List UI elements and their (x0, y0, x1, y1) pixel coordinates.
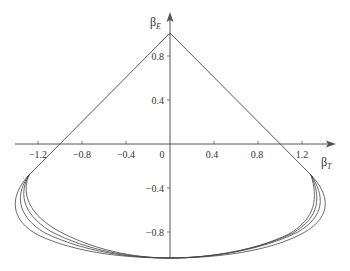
x-axis-label: βT (321, 155, 332, 171)
x-tick-label: 0 (160, 149, 165, 160)
y-tick-label: −0.8 (146, 227, 164, 238)
x-tick-label: −0.8 (73, 149, 91, 160)
y-axis-label: βE (150, 15, 161, 31)
y-tick-label: 0.8 (152, 51, 165, 62)
x-tick-label: −0.4 (117, 149, 135, 160)
axes (15, 15, 333, 258)
x-tick-label: 0.8 (251, 149, 264, 160)
axis-arrowheads (167, 12, 337, 148)
x-tick-label: 0.4 (206, 149, 219, 160)
x-tick-label: −1.2 (29, 149, 47, 160)
x-tick-labels: −1.2 −0.8 −0.4 0 0.4 0.8 1.2 (29, 149, 308, 160)
y-tick-label: 0.4 (152, 95, 165, 106)
left-line (27, 33, 170, 177)
y-tick-label: −0.4 (146, 183, 164, 194)
chart-canvas: −1.2 −0.8 −0.4 0 0.4 0.8 1.2 0.8 0.4 −0.… (0, 0, 350, 271)
right-line (170, 33, 313, 177)
x-tick-label: 1.2 (296, 149, 309, 160)
